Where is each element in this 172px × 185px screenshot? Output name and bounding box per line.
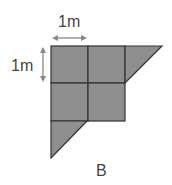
unit-squares: [51, 46, 125, 121]
bottom-triangle: [51, 121, 87, 158]
vertical-dimension-arrow: [40, 47, 46, 82]
right-triangle: [125, 46, 162, 83]
horizontal-dimension-label: 1m: [58, 13, 80, 31]
vertical-dimension-label: 1m: [11, 57, 33, 75]
shape-diagram: [0, 0, 172, 185]
horizontal-dimension-arrow: [52, 35, 87, 41]
diagram-caption: B: [96, 162, 107, 180]
